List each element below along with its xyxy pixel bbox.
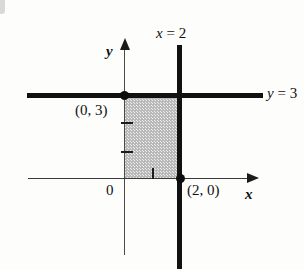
line-x-equals-2 <box>177 45 182 269</box>
shaded-feasible-region <box>124 96 180 178</box>
scan-smudge <box>0 0 5 14</box>
label-y-value: 3 <box>290 85 298 101</box>
y-axis-tick-2 <box>121 151 133 153</box>
y-axis-tick-1 <box>121 122 133 124</box>
label-line-y-equals-3: y = 3 <box>267 86 297 101</box>
origin-label: 0 <box>106 183 114 198</box>
line-y-equals-3 <box>27 93 263 98</box>
x-axis-arrowhead-icon <box>247 173 259 183</box>
label-x-var: x <box>156 25 163 41</box>
y-axis-arrowhead-icon <box>120 38 130 50</box>
graph-figure: y x 0 x = 2 y = 3 (0, 3) (2, 0) <box>0 0 304 269</box>
x-axis-tick-1 <box>152 168 154 179</box>
point-label-0-3: (0, 3) <box>75 103 108 118</box>
point-marker-0-3 <box>120 91 129 100</box>
label-y-var: y <box>267 85 274 101</box>
label-x-rel: = <box>163 25 179 41</box>
label-x-value: 2 <box>179 25 187 41</box>
x-axis-line <box>28 178 250 179</box>
label-y-rel: = <box>274 85 290 101</box>
label-line-x-equals-2: x = 2 <box>156 26 186 41</box>
point-label-2-0: (2, 0) <box>187 183 220 198</box>
x-axis-label: x <box>245 187 253 202</box>
point-marker-2-0 <box>176 174 185 183</box>
y-axis-label: y <box>106 44 113 59</box>
